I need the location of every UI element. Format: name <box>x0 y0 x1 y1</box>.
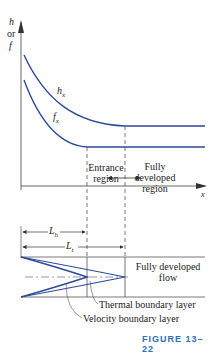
fx-curve <box>24 80 205 147</box>
entrance-line1: Entrance <box>88 162 124 173</box>
developed-line1: Fully <box>131 161 179 172</box>
lt-label: Lt <box>66 240 74 256</box>
y-axis-label-f: f <box>9 40 12 51</box>
thermal-bl-label: Thermal boundary layer <box>99 299 196 310</box>
hx-curve <box>24 55 205 126</box>
fx-subscript: x <box>56 117 59 125</box>
thermal-leader <box>90 281 98 304</box>
entrance-region-label: Entrance region <box>88 162 124 184</box>
hx-subscript: x <box>62 91 65 99</box>
x-axis-label: x <box>201 189 205 200</box>
velocity-bl-label: Velocity boundary layer <box>83 313 179 324</box>
developed-flow-line2: flow <box>128 272 208 283</box>
developed-flow-label: Fully developed flow <box>128 261 208 283</box>
hx-label: hx <box>57 85 65 101</box>
developed-line2: developed <box>131 172 179 183</box>
figure-caption: FIGURE 13–22 <box>142 334 215 354</box>
fx-label: fx <box>53 111 59 127</box>
y-axis-label-or: or <box>7 28 15 39</box>
y-axis-label-h: h <box>9 16 14 27</box>
entrance-line2: region <box>88 173 124 184</box>
lh-label: Lh <box>49 225 58 241</box>
developed-line3: region <box>131 183 179 194</box>
lh-subscript: h <box>55 231 59 239</box>
y-axis <box>18 20 24 190</box>
lt-subscript: t <box>72 246 74 254</box>
developed-region-label: Fully developed region <box>131 161 179 194</box>
developed-flow-line1: Fully developed <box>128 261 208 272</box>
